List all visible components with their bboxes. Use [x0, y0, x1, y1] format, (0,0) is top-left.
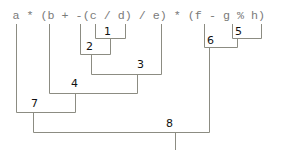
tree-node-7: 7: [17, 24, 76, 113]
node-label-6: 6: [207, 34, 214, 47]
tree-node-5: 5: [233, 24, 262, 39]
tree-node-8: 8: [34, 48, 210, 151]
expression-tree-diagram: a * (b + -(c / d) / e) * (f - g % h) 1 2…: [0, 0, 281, 154]
node-label-2: 2: [86, 40, 93, 53]
node-label-8: 8: [166, 117, 173, 130]
expression-text: a * (b + -(c / d) / e) * (f - g % h): [13, 9, 266, 23]
tree-node-3: 3: [92, 24, 162, 75]
node-label-4: 4: [71, 77, 78, 90]
node-label-3: 3: [137, 58, 144, 71]
tree-node-4: 4: [50, 24, 138, 94]
node-label-1: 1: [104, 25, 111, 38]
node-label-7: 7: [31, 97, 38, 110]
node-label-5: 5: [235, 25, 242, 38]
tree-node-1: 1: [96, 24, 126, 39]
